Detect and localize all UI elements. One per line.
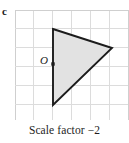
geometry-figure: O xyxy=(0,0,129,124)
shape-layer xyxy=(0,0,129,124)
triangle-shape xyxy=(53,29,112,105)
center-of-enlargement-point xyxy=(51,62,54,65)
figure-card: c O Scale factor −2 xyxy=(0,0,129,143)
caption: Scale factor −2 xyxy=(0,123,129,138)
origin-label: O xyxy=(40,54,48,66)
